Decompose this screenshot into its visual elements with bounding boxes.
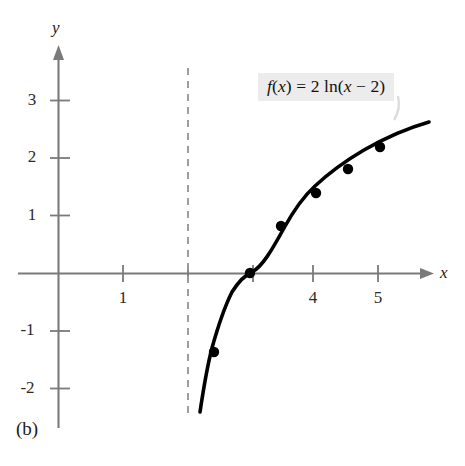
y-tick-label-neg2: -2 <box>13 378 42 398</box>
function-label-equals: = 2 ln( <box>292 76 344 96</box>
y-axis-label: y <box>52 18 60 38</box>
x-tick-label-5: 5 <box>368 288 388 308</box>
x-tick-label-1: 1 <box>113 288 133 308</box>
data-point <box>343 164 353 174</box>
panel-caption: (b) <box>16 418 38 440</box>
x-axis-label: x <box>440 263 448 283</box>
y-tick-label-1: 1 <box>22 205 42 225</box>
y-tick-label-2: 2 <box>22 147 42 167</box>
y-axis-arrow-icon <box>53 45 64 60</box>
data-point <box>276 221 286 231</box>
data-point <box>209 347 219 357</box>
x-axis-arrow-icon <box>420 268 434 279</box>
function-label-minus-two: − 2) <box>352 76 386 96</box>
function-label-x1: x <box>278 76 286 96</box>
x-tick-label-4: 4 <box>303 288 323 308</box>
label-leader-line <box>394 96 399 120</box>
y-tick-label-3: 3 <box>22 90 42 110</box>
data-point <box>311 188 321 198</box>
function-annotation-label: f(x) = 2 ln(x − 2) <box>258 73 394 101</box>
function-label-x2: x <box>344 76 352 96</box>
figure-panel-b: y x 3 2 1 -1 -2 1 4 5 f(x) = 2 ln(x − 2)… <box>0 0 465 466</box>
y-tick-label-neg1: -1 <box>13 320 42 340</box>
y-axis <box>53 45 64 428</box>
data-point <box>375 142 385 152</box>
graph-canvas <box>0 0 465 466</box>
function-curve <box>200 122 429 412</box>
data-point <box>245 268 255 278</box>
data-points <box>209 142 385 357</box>
y-axis-ticks <box>50 101 70 389</box>
x-axis <box>18 268 434 279</box>
